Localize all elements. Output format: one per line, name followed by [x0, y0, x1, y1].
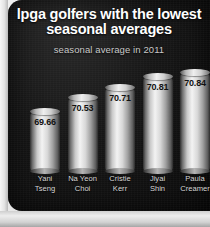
category-line-2: Shin: [141, 184, 175, 194]
bar-value-label: 70.53: [72, 103, 94, 113]
category-line-2: Tseng: [28, 184, 62, 194]
category-axis: Yani Tseng Na Yeon Choi Cristie Kerr Jiy…: [30, 174, 210, 193]
category-label-jiyai-shin: Jiyai Shin: [141, 174, 175, 193]
category-line-2: Creamer: [178, 184, 210, 194]
category-line-1: Paula: [178, 174, 210, 184]
category-line-1: Jiyai: [141, 174, 175, 184]
bar-cap-icon: [143, 73, 173, 80]
bar-value-label: 70.81: [147, 82, 169, 92]
bar-paula-creamer[interactable]: 70.84: [180, 72, 210, 171]
bar-slot: 69.66: [30, 58, 60, 171]
bar-slot: 70.53: [68, 58, 98, 171]
bar-cap-icon: [105, 84, 135, 91]
chart-title: lpga golfers with the lowest seasonal av…: [8, 7, 210, 37]
bar-cap-icon: [180, 69, 210, 76]
bar-value-label: 70.71: [109, 93, 131, 103]
bar-slot: 70.84: [180, 58, 210, 171]
category-label-na-yeon-choi: Na Yeon Choi: [66, 174, 100, 193]
plot-area: 69.66 70.53 70.71: [30, 58, 210, 171]
category-label-cristie-kerr: Cristie Kerr: [103, 174, 137, 193]
bar-cristie-kerr[interactable]: 70.71: [105, 87, 135, 171]
chart-subtitle: seasonal average in 2011: [8, 44, 210, 55]
category-line-2: Kerr: [103, 184, 137, 194]
frame-left-edge: [0, 0, 8, 227]
chart-figure: lpga golfers with the lowest seasonal av…: [0, 0, 210, 227]
bar-jiyai-shin[interactable]: 70.81: [143, 76, 173, 171]
bar-cap-icon: [68, 94, 98, 101]
category-label-yani-tseng: Yani Tseng: [28, 174, 62, 193]
category-label-paula-creamer: Paula Creamer: [178, 174, 210, 193]
category-line-1: Yani: [28, 174, 62, 184]
category-line-1: Na Yeon: [66, 174, 100, 184]
category-line-1: Cristie: [103, 174, 137, 184]
bar-value-label: 69.66: [34, 117, 56, 127]
bar-value-label: 70.84: [184, 78, 206, 88]
bar-cap-icon: [30, 108, 60, 115]
bar-yani-tseng[interactable]: 69.66: [30, 111, 60, 171]
chart-panel: lpga golfers with the lowest seasonal av…: [8, 0, 210, 211]
frame-bottom-edge: [0, 211, 210, 227]
bar-slot: 70.71: [105, 58, 135, 171]
bar-slot: 70.81: [143, 58, 173, 171]
category-line-2: Choi: [66, 184, 100, 194]
title-block: lpga golfers with the lowest seasonal av…: [8, 7, 210, 55]
bar-na-yeon-choi[interactable]: 70.53: [68, 97, 98, 171]
bar-series: 69.66 70.53 70.71: [30, 58, 210, 171]
